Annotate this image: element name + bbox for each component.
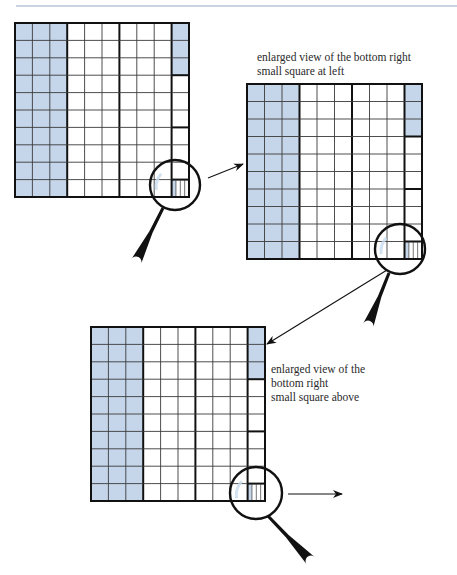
caption-line: enlarged view of the	[271, 362, 365, 376]
grids-layer	[15, 23, 425, 565]
caption-line: enlarged view of the bottom right	[257, 50, 411, 64]
arrow-1-to-2-icon	[208, 164, 243, 178]
caption-line: small square at left	[257, 64, 411, 78]
shaded-hundredths-region	[248, 327, 265, 379]
magnifier-handle	[267, 515, 315, 565]
caption-enlarged-view-above: enlarged view of the bottom right small …	[271, 362, 365, 404]
caption-enlarged-view-at-left: enlarged view of the bottom right small …	[257, 50, 411, 78]
grid-enlarged-1	[247, 84, 425, 328]
caption-line: small square above	[271, 390, 365, 404]
recursive-decimal-grid-diagram	[0, 0, 457, 575]
shaded-hundredths-region	[405, 84, 423, 137]
shaded-hundredths-region	[172, 23, 189, 75]
magnifier-handle	[363, 272, 391, 328]
caption-line: bottom right	[271, 376, 365, 390]
grid-original	[15, 23, 200, 264]
lens-reflection	[381, 238, 386, 254]
lens-reflection	[156, 174, 161, 190]
arrow-2-to-3-icon	[267, 270, 387, 344]
magnifier-handle	[131, 207, 164, 264]
